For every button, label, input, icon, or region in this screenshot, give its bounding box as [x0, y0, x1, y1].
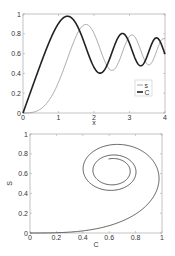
y-tick-label: 0.2	[11, 90, 21, 97]
x-tick-label: 0.6	[104, 234, 114, 241]
top-plot: 0123400.20.40.60.81xsC	[11, 11, 167, 127]
y-tick-label: 1	[17, 11, 21, 18]
clothoid-curve	[30, 144, 159, 233]
fresnel-figure: 0123400.20.40.60.81xsC 00.20.40.60.8100.…	[0, 0, 175, 256]
x-tick-label: 0.2	[52, 234, 62, 241]
x-tick-label: 1	[57, 114, 61, 121]
series-c-line	[23, 16, 165, 113]
x-tick-label: 0	[21, 114, 25, 121]
y-axis-label: S	[6, 181, 13, 186]
x-tick-label: 0	[28, 234, 32, 241]
y-tick-label: 0.6	[18, 170, 28, 177]
y-tick-label: 0.8	[11, 30, 21, 37]
x-tick-label: 0.8	[131, 234, 141, 241]
x-axis-label: C	[93, 241, 98, 248]
x-tick-label: 1	[160, 234, 164, 241]
y-tick-label: 0.4	[18, 190, 28, 197]
y-tick-label: 0.6	[11, 50, 21, 57]
legend: sC	[135, 80, 152, 96]
y-tick-label: 0	[24, 230, 28, 237]
y-tick-label: 0.8	[18, 150, 28, 157]
axes-frame	[30, 134, 162, 233]
y-tick-label: 0.4	[11, 70, 21, 77]
x-tick-label: 4	[163, 114, 167, 121]
legend-label-c: C	[145, 89, 150, 96]
x-tick-label: 0.4	[78, 234, 88, 241]
y-tick-label: 0	[17, 110, 21, 117]
x-tick-label: 3	[128, 114, 132, 121]
x-axis-label: x	[92, 119, 96, 126]
legend-label-s: s	[145, 82, 149, 89]
y-tick-label: 1	[24, 131, 28, 138]
bottom-plot: 00.20.40.60.8100.20.40.60.81CS	[6, 131, 164, 249]
y-tick-label: 0.2	[18, 210, 28, 217]
